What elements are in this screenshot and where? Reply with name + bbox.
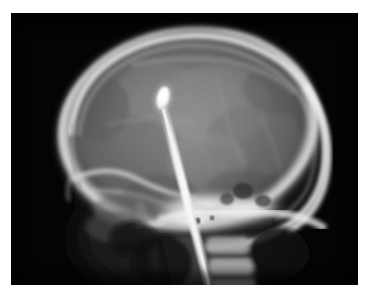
film-grain — [11, 13, 358, 285]
radiograph-canvas — [11, 13, 358, 285]
radiograph-film — [11, 13, 358, 285]
caption-area — [0, 285, 377, 306]
radiograph-page — [0, 0, 377, 306]
